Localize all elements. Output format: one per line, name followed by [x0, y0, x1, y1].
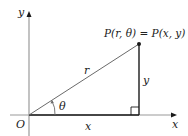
x-axis-arrow-icon: [171, 113, 177, 118]
right-angle-marker: [131, 107, 139, 115]
hypotenuse: [29, 44, 139, 115]
x-axis-label: x: [172, 118, 179, 131]
horizontal-leg-label: x: [85, 120, 92, 133]
polar-diagram: y x O P(r, θ) = P(x, y) r x y θ: [0, 0, 188, 136]
y-axis-label: y: [17, 6, 25, 19]
y-axis-arrow-icon: [27, 11, 32, 17]
hypotenuse-label: r: [84, 64, 90, 77]
origin-label: O: [16, 118, 25, 131]
point-label: P(r, θ) = P(x, y): [103, 27, 185, 39]
angle-label: θ: [59, 100, 66, 113]
vertical-leg-label: y: [142, 74, 150, 87]
point-p: [137, 42, 141, 46]
